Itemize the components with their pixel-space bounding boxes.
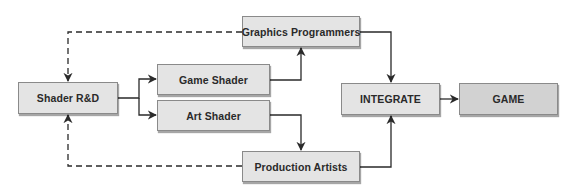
edge-graphics-programmers-to-integrate [360, 32, 391, 82]
node-label: Graphics Programmers [242, 26, 361, 38]
node-production-artists: Production Artists [242, 151, 360, 182]
node-game: GAME [459, 83, 558, 115]
flow-diagram: Shader R&D Game Shader Art Shader Graphi… [0, 0, 574, 192]
node-label: Production Artists [255, 161, 348, 173]
node-art-shader: Art Shader [157, 100, 270, 131]
node-game-shader: Game Shader [157, 64, 270, 95]
edge-shader-rd-to-art-shader [139, 98, 156, 115]
edge-production-artists-to-integrate [360, 116, 391, 167]
node-label: Game Shader [179, 74, 248, 86]
node-integrate: INTEGRATE [341, 83, 440, 115]
edge-art-shader-to-production-artists [270, 115, 301, 150]
edge-game-shader-to-graphics-programmers [270, 48, 301, 80]
node-shader-rd: Shader R&D [18, 82, 118, 114]
node-label: Art Shader [186, 110, 241, 122]
node-label: Shader R&D [37, 92, 99, 104]
node-label: INTEGRATE [360, 93, 421, 105]
node-label: GAME [493, 93, 525, 105]
node-graphics-programmers: Graphics Programmers [242, 16, 360, 47]
edge-shader-rd-to-game-shader [118, 79, 156, 98]
